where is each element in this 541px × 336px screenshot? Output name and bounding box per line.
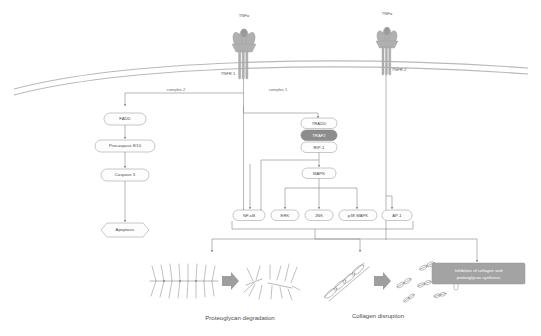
collagen-intact-illustration [324, 263, 369, 301]
node-fadd-label: FADD [119, 116, 130, 121]
node-tradd-label: TRADD [312, 121, 327, 126]
caption-proteoglycan-degradation: Proteoglycan degradation [205, 314, 274, 321]
node-erk: ERK [271, 210, 299, 221]
node-inhibition-line1: Inhibition of collagen and [455, 268, 503, 273]
node-mapk: MAPK [302, 168, 336, 179]
connector-mapk-branches [285, 179, 357, 210]
node-rip1-label: RIP-1 [314, 145, 326, 150]
node-p38mapk-label: p38 MAPK [348, 213, 369, 218]
proteoglycan-degradation-arrow-icon [222, 272, 239, 290]
connector-nfkb-inputs [244, 164, 262, 210]
tnfr1-receptor-icon [239, 50, 248, 79]
receptor-tnfr2-group: TNFR 2 TNFα [375, 11, 407, 75]
node-tradd: TRADD [301, 118, 337, 129]
node-caspase3-label: Caspase 3 [115, 172, 136, 177]
tnfa-ligand-right-icon [375, 27, 398, 48]
node-rip1: RIP-1 [301, 142, 337, 153]
diagram-canvas: TNFR 1 TNFα TNFR 2 TNFα complex 2 comple… [0, 0, 541, 336]
output-distribution [212, 239, 477, 262]
node-inhibition-line2: proteoglycan synthesis [457, 275, 501, 280]
node-procaspase-label: Procaspase 8/10 [109, 143, 142, 148]
node-traf2-label: TRAF2 [312, 133, 326, 138]
node-ap1-label: AP-1 [392, 213, 402, 218]
collagen-disruption-arrow-icon [374, 272, 391, 290]
connector-rip1-branches [261, 153, 319, 211]
tnfa-left-label: TNFα [239, 13, 250, 18]
caption-collagen-disruption: Collagen disruption [352, 312, 404, 319]
node-fadd: FADD [104, 113, 146, 125]
connector-tnfr1-split [125, 79, 244, 106]
node-nfkb-label: NF-κB [243, 213, 255, 218]
node-procaspase: Procaspase 8/10 [95, 140, 155, 152]
node-erk-label: ERK [281, 213, 290, 218]
connector-tnfr2-ap1 [386, 196, 392, 209]
complex-2-label: complex 2 [167, 87, 186, 92]
node-nfkb: NF-κB [233, 210, 265, 221]
proteoglycan-intact-illustration [150, 264, 218, 298]
node-p38mapk: p38 MAPK [339, 210, 377, 221]
node-apoptosis-label: Apoptosis [116, 227, 135, 232]
node-ap1: AP-1 [382, 210, 412, 221]
node-traf2: TRAF2 [301, 130, 337, 141]
tnfr2-receptor-icon [382, 46, 391, 75]
node-caspase3: Caspase 3 [101, 169, 149, 181]
node-jnk-label: JNK [315, 213, 323, 218]
node-mapk-label: MAPK [313, 171, 325, 176]
complex-1-label: complex 1 [269, 87, 288, 92]
node-apoptosis: Apoptosis [101, 223, 149, 237]
tnfa-ligand-left-icon [231, 29, 256, 52]
node-inhibition-box: Inhibition of collagen and proteoglycan … [432, 263, 525, 284]
node-jnk: JNK [305, 210, 333, 221]
tnfa-right-label: TNFα [382, 11, 393, 16]
proteoglycan-degraded-illustration [244, 264, 300, 300]
tnfr1-label: TNFR 1 [221, 71, 236, 76]
tnfr2-label: TNFR 2 [392, 67, 407, 72]
